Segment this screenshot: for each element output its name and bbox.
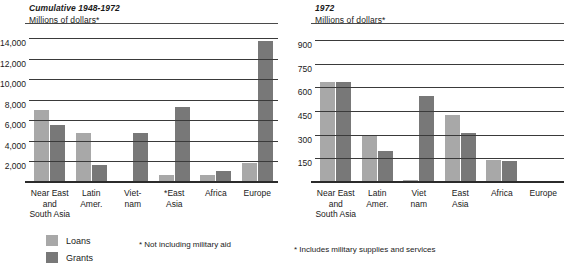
bar-loans (486, 160, 501, 182)
bar-loans (242, 163, 257, 183)
category-label-line: Europe (515, 188, 572, 199)
y-axis-tick-label: 2,000 (5, 161, 26, 171)
x-axis-category-label: Europe (515, 188, 572, 199)
bar-loans (445, 115, 460, 182)
category-label-line: South Asia (21, 209, 79, 220)
gridline-750 (315, 64, 564, 65)
gridline-600 (315, 87, 564, 88)
bar-grants (175, 107, 190, 182)
bar-loans (320, 82, 335, 182)
gridline-12000 (29, 59, 278, 60)
gridline-14000 (29, 38, 278, 39)
y-axis-tick-label: 450 (298, 111, 312, 121)
gridline-450 (315, 111, 564, 112)
bar-group (71, 28, 113, 182)
y-axis-tick-label: 14,000 (0, 38, 26, 48)
legend-item-loans: Loans (46, 232, 93, 249)
gridline-150 (315, 158, 564, 159)
category-label-line: Asia (146, 199, 204, 210)
left-footnote: * Not including military aid (139, 240, 231, 249)
gridline-4000 (29, 141, 278, 142)
bar-grants (336, 82, 351, 182)
gridline-900 (315, 40, 564, 41)
right-plot-area: 150300450600750900Near EastandSouth Asia… (315, 28, 564, 182)
y-axis-tick-label: 600 (298, 87, 312, 97)
gridline-2000 (29, 161, 278, 162)
gridline-10000 (29, 79, 278, 80)
bar-grants (502, 161, 517, 182)
legend-label-loans: Loans (66, 236, 91, 246)
bar-group (154, 28, 196, 182)
chart-panel-1972: 1972 Millions of dollars* 15030045060075… (286, 0, 572, 276)
y-axis-tick-label: 6,000 (5, 120, 26, 130)
chart-panel-cumulative: Cumulative 1948-1972 Millions of dollars… (0, 0, 286, 276)
gridline-8000 (29, 100, 278, 101)
y-axis-tick-label: 900 (298, 40, 312, 50)
gridline-6000 (29, 120, 278, 121)
y-axis-tick-label: 12,000 (0, 59, 26, 69)
chart-legend: Loans Grants (46, 232, 93, 266)
loans-swatch-icon (46, 235, 58, 246)
gridline-300 (315, 135, 564, 136)
category-label-line: South Asia (307, 209, 365, 220)
legend-item-grants: Grants (46, 249, 93, 266)
y-axis-tick-label: 750 (298, 64, 312, 74)
category-label-line: Europe (229, 188, 287, 199)
bar-grants (419, 96, 434, 182)
bar-group (237, 28, 279, 182)
chart-top-rule (25, 23, 278, 24)
right-axis-baseline (311, 181, 564, 183)
y-axis-tick-label: 300 (298, 135, 312, 145)
left-axis-baseline (25, 181, 278, 183)
y-axis-tick-label: 4,000 (5, 141, 26, 151)
x-axis-category-label: Europe (229, 188, 287, 199)
bar-group (29, 28, 71, 182)
left-plot-area: 2,0004,0006,0008,00010,00012,00014,000Ne… (29, 28, 278, 182)
chart-top-rule (311, 23, 564, 24)
y-axis-tick-label: 150 (298, 158, 312, 168)
right-chart-title: 1972 (315, 3, 334, 13)
y-axis-tick-label: 8,000 (5, 100, 26, 110)
legend-label-grants: Grants (66, 253, 93, 263)
grants-swatch-icon (46, 252, 58, 263)
bar-grants (92, 165, 107, 182)
category-label-line: Asia (432, 199, 490, 210)
bar-group (112, 28, 154, 182)
bar-group (195, 28, 237, 182)
bar-grants (50, 125, 65, 182)
right-footnote: * Includes military supplies and service… (294, 245, 435, 254)
left-chart-title: Cumulative 1948-1972 (29, 3, 120, 13)
left-bars-layer (29, 28, 278, 182)
bar-grants (378, 151, 393, 182)
y-axis-tick-label: 10,000 (0, 79, 26, 89)
